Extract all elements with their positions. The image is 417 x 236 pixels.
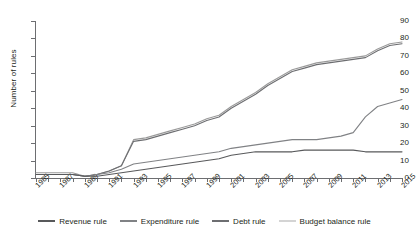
legend-swatch-icon (212, 220, 229, 221)
legend-swatch-icon (38, 220, 55, 221)
series-line-revenue-rule (36, 150, 402, 176)
series-line-debt-rule (36, 44, 402, 177)
legend-label: Expenditure rule (141, 217, 199, 226)
legend-item[interactable]: Expenditure rule (120, 217, 199, 226)
legend-swatch-icon (279, 220, 296, 221)
series-line-budget-balance-rule (36, 42, 402, 176)
legend-item[interactable]: Budget balance rule (279, 217, 371, 226)
legend-swatch-icon (120, 220, 137, 221)
legend-item[interactable]: Revenue rule (38, 217, 107, 226)
legend-item[interactable]: Debt rule (212, 217, 265, 226)
legend-label: Debt rule (233, 217, 265, 226)
chart-legend: Revenue ruleExpenditure ruleDebt ruleBud… (0, 212, 409, 230)
legend-label: Budget balance rule (300, 217, 371, 226)
series-line-expenditure-rule (36, 100, 402, 177)
legend-label: Revenue rule (59, 217, 107, 226)
